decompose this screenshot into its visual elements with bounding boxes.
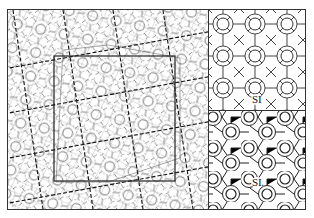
tiling-pattern <box>8 10 208 209</box>
si-label-bottom: SI <box>251 177 263 188</box>
approximant-tiling-bottom: SI <box>209 111 306 209</box>
si-label-top: SI <box>251 94 263 105</box>
figure-frame: SI SI <box>7 9 306 210</box>
hexagonal-tiling-pattern <box>209 111 306 209</box>
quasicrystal-tiling-panel <box>8 10 208 209</box>
right-panels: SI SI <box>208 10 306 209</box>
approximant-tiling-top: SI <box>209 10 306 111</box>
